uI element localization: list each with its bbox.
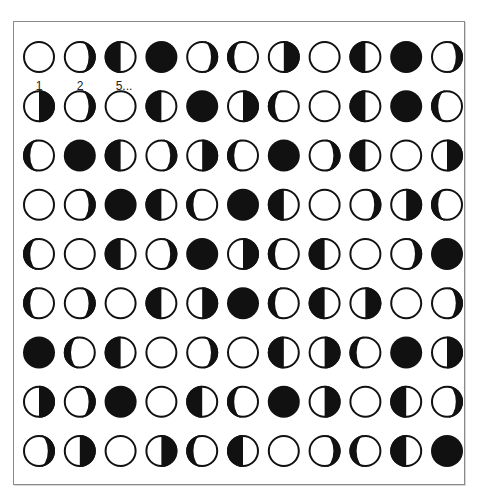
right-crescent-moon-icon xyxy=(310,140,341,172)
left-half-moon-icon xyxy=(145,287,176,319)
left-crescent-moon-icon xyxy=(23,287,54,319)
full-moon-icon xyxy=(350,387,380,417)
full-moon-icon xyxy=(269,436,299,466)
new-moon-icon xyxy=(431,238,463,270)
new-moon-icon xyxy=(227,287,259,319)
new-moon-icon xyxy=(64,140,96,172)
full-moon-icon xyxy=(24,190,54,220)
label-1: 1 xyxy=(36,79,43,93)
right-half-moon-icon xyxy=(310,386,341,418)
left-half-moon-icon xyxy=(390,435,421,467)
left-crescent-moon-icon xyxy=(431,189,462,221)
full-moon-icon xyxy=(106,436,136,466)
moon-phase-grid xyxy=(0,0,481,502)
right-half-moon-icon xyxy=(187,140,218,172)
right-half-moon-icon xyxy=(432,337,463,369)
right-half-moon-icon xyxy=(269,41,300,73)
right-crescent-moon-icon xyxy=(187,337,218,369)
full-moon-icon xyxy=(391,141,421,171)
left-half-moon-icon xyxy=(349,140,380,172)
new-moon-icon xyxy=(186,90,218,122)
left-half-moon-icon xyxy=(227,435,258,467)
left-half-moon-icon xyxy=(309,287,340,319)
left-half-moon-icon xyxy=(268,189,299,221)
new-moon-icon xyxy=(390,337,422,369)
right-half-moon-icon xyxy=(187,287,218,319)
full-moon-icon xyxy=(24,42,54,72)
right-half-moon-icon xyxy=(228,238,259,270)
new-moon-icon xyxy=(390,41,422,73)
right-crescent-moon-icon xyxy=(65,287,96,319)
left-half-moon-icon xyxy=(349,41,380,73)
full-moon-icon xyxy=(65,239,95,269)
right-half-moon-icon xyxy=(391,189,422,221)
left-half-moon-icon xyxy=(309,238,340,270)
new-moon-icon xyxy=(268,140,300,172)
right-half-moon-icon xyxy=(310,337,341,369)
right-crescent-moon-icon xyxy=(65,90,96,122)
left-half-moon-icon xyxy=(145,90,176,122)
left-crescent-moon-icon xyxy=(268,90,299,122)
full-moon-icon xyxy=(146,387,176,417)
right-half-moon-icon xyxy=(65,435,96,467)
left-crescent-moon-icon xyxy=(268,287,299,319)
full-moon-icon xyxy=(106,91,136,121)
left-half-moon-icon xyxy=(105,140,136,172)
right-crescent-moon-icon xyxy=(187,41,218,73)
left-crescent-moon-icon xyxy=(23,140,54,172)
label-5: 5... xyxy=(116,79,133,93)
right-half-moon-icon xyxy=(350,287,381,319)
right-half-moon-icon xyxy=(24,90,55,122)
right-half-moon-icon xyxy=(146,435,177,467)
left-half-moon-icon xyxy=(349,90,380,122)
right-crescent-moon-icon xyxy=(350,189,381,221)
right-crescent-moon-icon xyxy=(24,435,55,467)
full-moon-icon xyxy=(310,42,340,72)
right-crescent-moon-icon xyxy=(432,386,463,418)
left-half-moon-icon xyxy=(105,238,136,270)
left-half-moon-icon xyxy=(390,386,421,418)
full-moon-icon xyxy=(228,338,258,368)
new-moon-icon xyxy=(390,90,422,122)
new-moon-icon xyxy=(105,386,137,418)
new-moon-icon xyxy=(268,386,300,418)
left-half-moon-icon xyxy=(186,386,217,418)
right-crescent-moon-icon xyxy=(146,238,177,270)
full-moon-icon xyxy=(310,91,340,121)
left-crescent-moon-icon xyxy=(227,386,258,418)
new-moon-icon xyxy=(145,41,177,73)
left-crescent-moon-icon xyxy=(186,189,217,221)
right-crescent-moon-icon xyxy=(65,386,96,418)
full-moon-icon xyxy=(350,239,380,269)
right-crescent-moon-icon xyxy=(146,140,177,172)
new-moon-icon xyxy=(105,189,137,221)
left-crescent-moon-icon xyxy=(64,337,95,369)
new-moon-icon xyxy=(227,189,259,221)
new-moon-icon xyxy=(186,238,218,270)
right-crescent-moon-icon xyxy=(432,287,463,319)
left-crescent-moon-icon xyxy=(227,140,258,172)
left-half-moon-icon xyxy=(268,337,299,369)
new-moon-icon xyxy=(23,337,55,369)
left-crescent-moon-icon xyxy=(349,435,380,467)
left-crescent-moon-icon xyxy=(268,238,299,270)
left-crescent-moon-icon xyxy=(431,90,462,122)
left-crescent-moon-icon xyxy=(349,337,380,369)
right-crescent-moon-icon xyxy=(65,41,96,73)
right-half-moon-icon xyxy=(432,140,463,172)
right-half-moon-icon xyxy=(24,386,55,418)
right-crescent-moon-icon xyxy=(391,238,422,270)
left-crescent-moon-icon xyxy=(23,238,54,270)
full-moon-icon xyxy=(146,338,176,368)
new-moon-icon xyxy=(431,435,463,467)
right-crescent-moon-icon xyxy=(432,41,463,73)
label-2: 2 xyxy=(77,79,84,93)
right-crescent-moon-icon xyxy=(65,189,96,221)
full-moon-icon xyxy=(106,288,136,318)
left-crescent-moon-icon xyxy=(186,435,217,467)
left-half-moon-icon xyxy=(145,189,176,221)
left-half-moon-icon xyxy=(105,337,136,369)
right-half-moon-icon xyxy=(228,90,259,122)
full-moon-icon xyxy=(391,288,421,318)
full-moon-icon xyxy=(310,190,340,220)
